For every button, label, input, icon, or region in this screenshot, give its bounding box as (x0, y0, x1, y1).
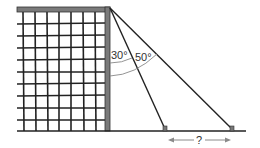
net-grid (17, 12, 105, 131)
outer-wire (110, 8, 232, 129)
inner-peg (163, 126, 167, 131)
angle-label-30: 30° (111, 49, 128, 61)
diagram-canvas: 30° 50° ? (0, 0, 260, 148)
unknown-distance-label: ? (196, 134, 202, 146)
outer-peg (230, 126, 234, 131)
crossbar (17, 7, 110, 12)
angle-label-50: 50° (135, 51, 152, 63)
goal-post (105, 7, 110, 131)
